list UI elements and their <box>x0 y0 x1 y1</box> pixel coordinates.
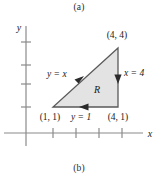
hypotenuse-label: y = x <box>46 69 67 79</box>
figure-container: (a) y x y = x x = 4 <box>0 0 158 182</box>
axes-group <box>4 26 143 146</box>
region-label: R <box>93 84 100 95</box>
bottom-edge-label: y = 1 <box>70 112 91 122</box>
x-axis-label: x <box>147 128 153 139</box>
vertex-label-top-right: (4, 4) <box>107 30 128 41</box>
panel-label-a: (a) <box>0 2 158 12</box>
y-axis-label: y <box>16 22 22 33</box>
panel-label-b: (b) <box>0 163 158 173</box>
right-edge-label: x = 4 <box>123 68 144 78</box>
region-plot: y x y = x x = 4 y = 1 R (4, 4) (1, 1) (4… <box>0 14 158 154</box>
vertex-label-bottom-right: (4, 1) <box>108 112 129 123</box>
vertex-label-bottom-left: (1, 1) <box>40 112 61 123</box>
